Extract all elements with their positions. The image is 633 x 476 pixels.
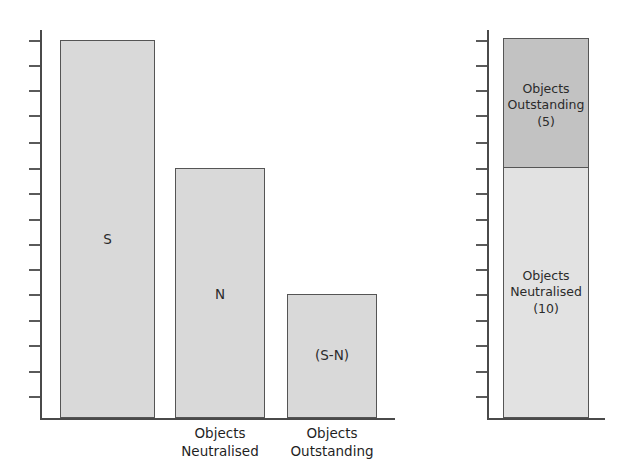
right-y-tick	[476, 65, 487, 67]
segment-label-line2: Outstanding	[508, 97, 585, 112]
segment-value-label: (10)	[533, 301, 559, 316]
segment-label-line1: Objects	[522, 268, 569, 283]
two-bar-charts-figure: S N (S-N) Objects Neutralised Objects Ou…	[0, 0, 633, 476]
right-stacked-bar-chart: Objects Outstanding (5) Objects Neutrali…	[0, 0, 633, 476]
right-y-tick	[476, 371, 487, 373]
right-y-tick	[476, 320, 487, 322]
stacked-segment-objects-neutralised-label: Objects Neutralised (10)	[504, 268, 588, 317]
right-y-tick	[476, 142, 487, 144]
right-y-axis	[487, 30, 489, 420]
right-x-axis	[487, 418, 605, 420]
right-y-tick	[476, 40, 487, 42]
right-y-tick	[476, 115, 487, 117]
right-y-tick	[476, 168, 487, 170]
right-y-tick	[476, 396, 487, 398]
right-y-tick	[476, 244, 487, 246]
segment-value-label: (5)	[537, 114, 555, 129]
right-y-tick	[476, 345, 487, 347]
segment-label-line1: Objects	[522, 81, 569, 96]
stacked-segment-objects-outstanding-label: Objects Outstanding (5)	[504, 81, 588, 130]
right-y-tick	[476, 90, 487, 92]
right-y-tick	[476, 193, 487, 195]
stacked-segment-objects-neutralised[interactable]: Objects Neutralised (10)	[503, 167, 589, 418]
right-y-tick	[476, 219, 487, 221]
segment-label-line2: Neutralised	[510, 284, 582, 299]
right-y-tick	[476, 269, 487, 271]
stacked-segment-objects-outstanding[interactable]: Objects Outstanding (5)	[503, 38, 589, 168]
right-y-tick	[476, 294, 487, 296]
